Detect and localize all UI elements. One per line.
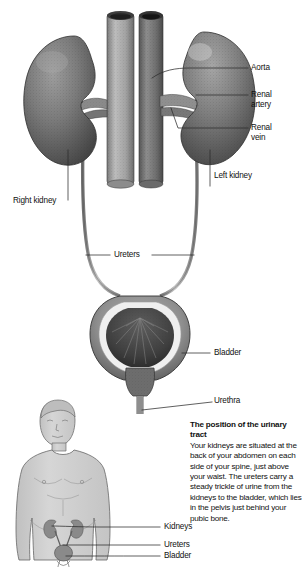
- label-renal-artery-line2: artery: [251, 100, 271, 110]
- label-body-bladder: Bladder: [164, 551, 191, 561]
- urethra-lumen: [137, 396, 143, 414]
- figure-neck: [52, 443, 66, 451]
- aorta-vessel: [139, 11, 163, 188]
- label-renal-vein-line1: Renal: [251, 123, 272, 133]
- vena-cava: [107, 11, 134, 188]
- bladder-neck-texture: [125, 368, 154, 396]
- figure-kidney-right: [44, 520, 57, 538]
- caption-title: The position of the uri­nary tract: [190, 420, 302, 441]
- label-renal-vein-line2: vein: [251, 133, 265, 143]
- label-urethra: Urethra: [214, 396, 240, 406]
- label-ureters: Ureters: [114, 250, 140, 260]
- figure-bladder: [55, 545, 73, 561]
- label-aorta: Aorta: [251, 63, 270, 73]
- label-body-kidneys: Kidneys: [164, 522, 192, 532]
- label-renal-artery-line1: Renal: [251, 90, 272, 100]
- label-bladder: Bladder: [214, 348, 241, 358]
- bladder-interior-texture: [106, 308, 174, 367]
- label-right-kidney: Right kidney: [13, 196, 56, 206]
- caption-body: Your kidneys are situated at the back of…: [190, 441, 302, 524]
- label-body-ureters: Ureters: [164, 540, 190, 550]
- figure-kidney-left: [71, 520, 84, 538]
- caption-block: The position of the uri­nary tract Your …: [190, 420, 302, 524]
- label-left-kidney: Left kidney: [214, 171, 252, 181]
